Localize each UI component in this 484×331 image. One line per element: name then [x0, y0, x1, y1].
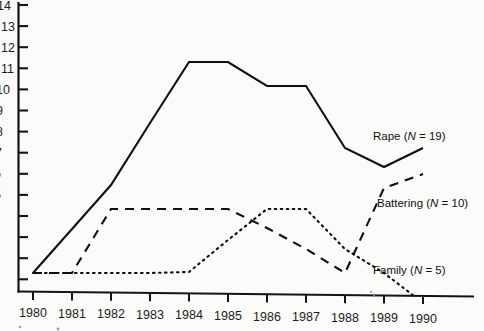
y-tick-label-10: 10 [0, 83, 10, 97]
x-tick-label-1987: 1987 [292, 310, 320, 324]
x-tick-label-1984: 1984 [175, 308, 203, 322]
x-tick-label-1982: 1982 [97, 307, 125, 321]
y-tick-label-7: 7 [0, 146, 2, 160]
x-tick-label-1983: 1983 [136, 308, 164, 322]
line-chart-svg: 14 13 12 11 10 9 8 7 6 5 4 3 2 1 [0, 0, 484, 331]
series-label-rape-name: Rape ( [373, 130, 408, 142]
svg-text:Family (N = 5): Family (N = 5) [373, 264, 446, 276]
x-tick-label-1986: 1986 [253, 310, 281, 324]
y-tick-label-11: 11 [1, 62, 14, 76]
series-label-family-name: Family ( [373, 264, 414, 276]
y-tick-marks [19, 5, 29, 279]
y-tick-labels: 14 13 12 11 10 9 8 7 6 5 4 3 2 1 [0, 0, 15, 287]
y-tick-label-5: 5 [0, 188, 1, 202]
x-tick-label-1980: 1980 [19, 306, 47, 320]
series-label-family-tail: = 5) [422, 264, 446, 276]
series-label-rape: Rape (N = 19) [373, 130, 446, 142]
x-axis-line [18, 292, 475, 297]
series-line-family [33, 209, 414, 296]
series-label-battering-name: Battering ( [377, 197, 430, 209]
svg-text:Battering (N = 10): Battering (N = 10) [377, 197, 468, 209]
svg-text:Rape (N = 19): Rape (N = 19) [373, 130, 446, 142]
x-tick-labels: 1980 1981 1982 1983 1984 1985 1986 1987 … [19, 306, 437, 326]
x-tick-label-1990: 1990 [409, 312, 437, 326]
series-label-rape-tail: = 19) [416, 130, 446, 142]
series-line-battering [33, 174, 423, 273]
x-tick-label-1988: 1988 [331, 311, 359, 325]
scan-speck [370, 291, 372, 293]
x-tick-label-1981: 1981 [58, 307, 86, 321]
x-tick-label-1985: 1985 [214, 309, 242, 323]
y-tick-label-13: 13 [1, 20, 15, 34]
y-tick-label-12: 12 [1, 41, 15, 55]
scan-speck [19, 326, 21, 328]
y-tick-label-6: 6 [0, 167, 1, 181]
series-label-family: Family (N = 5) [373, 264, 446, 276]
scan-speck [57, 328, 60, 331]
x-tick-label-1989: 1989 [370, 311, 398, 325]
y-tick-label-14: 14 [0, 0, 11, 13]
scan-speck [373, 295, 375, 297]
chart-figure: 14 13 12 11 10 9 8 7 6 5 4 3 2 1 [0, 0, 484, 331]
series-label-battering-tail: = 10) [438, 197, 468, 209]
series-label-battering: Battering (N = 10) [377, 197, 468, 209]
y-tick-label-8: 8 [0, 125, 3, 139]
y-tick-label-9: 9 [0, 104, 3, 118]
